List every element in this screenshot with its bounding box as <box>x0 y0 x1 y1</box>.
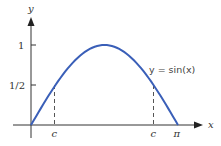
x-tick-label-pi: π <box>173 128 181 139</box>
y-axis-arrow-icon <box>28 17 35 26</box>
x-tick-label-c-left: c <box>52 128 58 139</box>
y-tick-label-half: 1/2 <box>9 80 25 91</box>
x-axis-arrow-icon <box>194 122 203 129</box>
sine-chart: y x 1 1/2 c c π y = sin(x) <box>0 0 221 146</box>
y-tick-label-1: 1 <box>18 40 24 51</box>
y-axis-label: y <box>27 3 34 14</box>
x-tick-label-c-right: c <box>151 128 157 139</box>
x-axis-label: x <box>208 119 214 130</box>
sine-curve <box>31 45 178 125</box>
curve-equation-label: y = sin(x) <box>149 64 195 75</box>
